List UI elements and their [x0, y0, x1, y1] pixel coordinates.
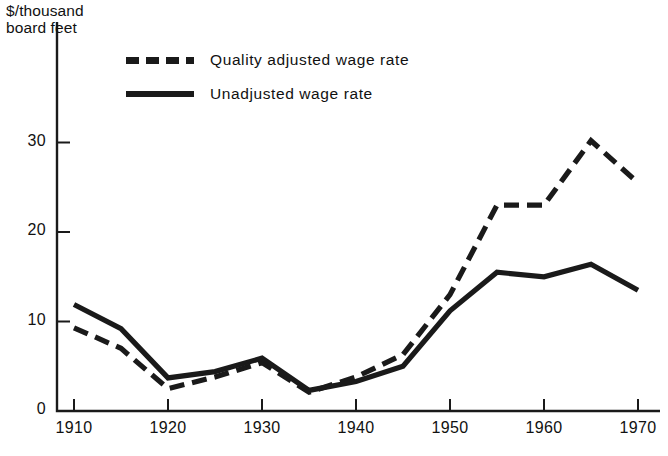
line-chart: $/thousand board feet Quality adjusted w…	[0, 0, 668, 456]
x-axis-ticks	[74, 399, 638, 411]
x-tick-label-1930: 1930	[227, 419, 297, 437]
legend-label-quality-adjusted: Quality adjusted wage rate	[210, 51, 409, 69]
y-axis-title-line1: $/thousand	[6, 2, 84, 19]
data-series	[74, 141, 638, 392]
legend-item-unadjusted-wage-rate: Unadjusted wage rate	[126, 80, 373, 108]
y-axis-title: $/thousand board feet	[6, 2, 84, 36]
legend-swatch-solid-icon	[126, 91, 194, 97]
x-tick-label-1960: 1960	[509, 419, 579, 437]
chart-legend: Quality adjusted wage rate Unadjusted wa…	[126, 46, 456, 110]
legend-label-unadjusted: Unadjusted wage rate	[210, 85, 373, 103]
y-axis-ticks	[57, 143, 70, 412]
y-tick-label-20: 20	[2, 221, 46, 239]
legend-item-quality-adjusted-wage-rate: Quality adjusted wage rate	[126, 46, 409, 74]
y-tick-label-0: 0	[2, 400, 46, 418]
y-tick-label-10: 10	[2, 311, 46, 329]
x-tick-label-1970: 1970	[603, 419, 668, 437]
x-tick-label-1920: 1920	[133, 419, 203, 437]
x-tick-label-1910: 1910	[39, 419, 109, 437]
x-tick-label-1940: 1940	[321, 419, 391, 437]
x-tick-label-1950: 1950	[415, 419, 485, 437]
y-tick-label-30: 30	[2, 132, 46, 150]
series-line-quality-adjusted-wage-rate	[74, 141, 638, 392]
y-axis-title-line2: board feet	[6, 19, 77, 36]
series-line-unadjusted-wage-rate	[74, 264, 638, 390]
legend-swatch-dashed-icon	[126, 57, 194, 64]
